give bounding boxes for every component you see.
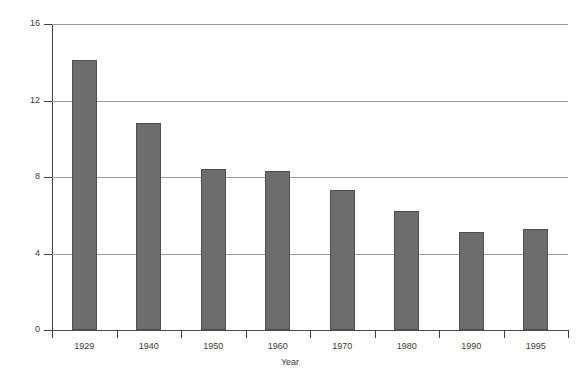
- x-tick-0: [52, 331, 53, 338]
- y-tick-0: [44, 330, 52, 331]
- x-tick-3: [246, 331, 247, 338]
- y-tick-label-12: 12: [0, 96, 40, 105]
- x-tick-label-1990: 1990: [439, 342, 504, 351]
- y-tick-4: [44, 254, 52, 255]
- x-tick-label-1970: 1970: [310, 342, 375, 351]
- bar-1929: [72, 60, 97, 330]
- y-tick-16: [44, 24, 52, 25]
- gridline-16: [52, 24, 568, 25]
- x-tick-2: [181, 331, 182, 338]
- x-tick-label-1995: 1995: [504, 342, 569, 351]
- gridline-12: [52, 101, 568, 102]
- bar-1950: [201, 169, 226, 330]
- x-tick-5: [375, 331, 376, 338]
- bar-1970: [330, 190, 355, 330]
- y-tick-12: [44, 101, 52, 102]
- plot-area: [52, 24, 568, 330]
- x-tick-4: [310, 331, 311, 338]
- bar-1940: [136, 123, 161, 330]
- x-tick-1: [117, 331, 118, 338]
- bar-1990: [459, 232, 484, 330]
- x-tick-label-1980: 1980: [375, 342, 440, 351]
- bar-1960: [265, 171, 290, 330]
- x-tick-6: [439, 331, 440, 338]
- x-tick-label-1950: 1950: [181, 342, 246, 351]
- bar-chart: Percent 0481216 192919401950196019701980…: [0, 0, 580, 377]
- x-axis-title: Year: [0, 357, 580, 367]
- x-tick-label-1960: 1960: [246, 342, 311, 351]
- y-tick-label-0: 0: [0, 325, 40, 334]
- y-tick-label-4: 4: [0, 249, 40, 258]
- gridline-8: [52, 177, 568, 178]
- x-tick-label-1940: 1940: [117, 342, 182, 351]
- y-tick-8: [44, 177, 52, 178]
- x-tick-7: [504, 331, 505, 338]
- bar-1995: [523, 229, 548, 330]
- y-tick-label-16: 16: [0, 19, 40, 28]
- x-tick-8: [568, 331, 569, 338]
- x-tick-label-1929: 1929: [52, 342, 117, 351]
- y-tick-label-8: 8: [0, 172, 40, 181]
- gridline-4: [52, 254, 568, 255]
- bar-1980: [394, 211, 419, 330]
